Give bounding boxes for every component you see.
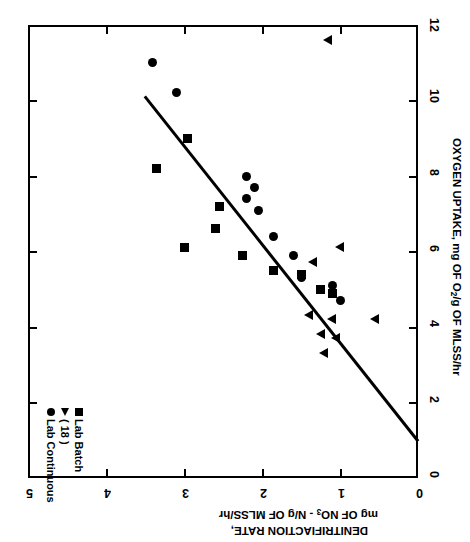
y-axis-title-line2-b: - N/g OF MLSS/hr xyxy=(219,509,317,521)
y-tick-label-2: 2 xyxy=(260,486,267,500)
x-tick-4 xyxy=(409,327,418,329)
x-tick-label-6: 6 xyxy=(427,245,441,252)
data-point-triangle xyxy=(316,329,325,339)
data-point-triangle xyxy=(308,257,317,267)
y-axis-title-line2-a: mg OF NO xyxy=(321,509,378,521)
y-tick-label-5: 5 xyxy=(26,486,33,500)
data-point-triangle xyxy=(370,314,379,324)
x-tick-label-4: 4 xyxy=(427,320,441,327)
data-point-square xyxy=(215,202,224,211)
y-tick-label-3: 3 xyxy=(182,486,189,500)
y-tick-label-4: 4 xyxy=(104,486,111,500)
y-tick-2 xyxy=(262,25,264,34)
y-axis-title-line2: mg OF NO3 - N/g OF MLSS/hr xyxy=(219,507,378,521)
x-tick-label-12: 12 xyxy=(427,18,441,32)
data-point-square xyxy=(297,270,306,279)
x-axis-title: OXYGEN UPTAKE, mg OF O2/g OF MLSS/hr xyxy=(449,138,463,376)
y-tick-label-0: 0 xyxy=(416,486,423,500)
x-axis-title-part2: /g OF MLSS/hr xyxy=(451,296,463,375)
chart-figure: 12 10 8 6 4 2 0 OXYGEN UPTAKE, mg OF O2/… xyxy=(0,0,470,542)
x-tick-8-left xyxy=(28,176,37,178)
data-point-circle xyxy=(172,88,181,97)
x-tick-6-left xyxy=(28,251,37,253)
x-tick-label-10: 10 xyxy=(427,89,441,103)
data-point-circle xyxy=(242,172,251,181)
legend-label-18: ( 18 ) xyxy=(59,419,71,445)
x-tick-2-left xyxy=(28,402,37,404)
square-marker-icon xyxy=(75,408,83,416)
x-tick-label-2: 2 xyxy=(427,396,441,403)
data-point-triangle xyxy=(319,348,328,358)
y-tick-4-bottom xyxy=(106,469,108,478)
y-tick-1-bottom xyxy=(340,469,342,478)
x-tick-4-left xyxy=(28,327,37,329)
data-point-square xyxy=(316,285,325,294)
data-point-triangle xyxy=(335,242,344,252)
data-point-square xyxy=(183,134,192,143)
y-tick-4 xyxy=(106,25,108,34)
y-axis-title-line1: DENITRIFIACTION RATE, xyxy=(231,525,368,537)
x-tick-label-8: 8 xyxy=(427,169,441,176)
circle-marker-icon xyxy=(47,408,55,416)
legend-item-18: ( 18 ) xyxy=(59,408,72,445)
x-tick-label-0: 0 xyxy=(427,471,441,478)
x-tick-6 xyxy=(409,251,418,253)
data-point-triangle xyxy=(327,314,336,324)
x-axis-title-part1: OXYGEN UPTAKE, mg OF O xyxy=(451,138,463,292)
data-point-square xyxy=(269,266,278,275)
y-tick-2-bottom xyxy=(262,469,264,478)
x-tick-10-left xyxy=(28,100,37,102)
y-axis-title-line2-sub: 3 xyxy=(317,507,322,516)
data-point-square xyxy=(180,243,189,252)
data-point-square xyxy=(152,164,161,173)
data-point-circle xyxy=(250,183,259,192)
data-point-triangle xyxy=(331,333,340,343)
plot-frame xyxy=(28,25,418,478)
legend-item-lab-batch: Lab Batch xyxy=(73,408,86,472)
data-point-square xyxy=(238,251,247,260)
data-point-circle xyxy=(336,296,345,305)
data-point-circle xyxy=(289,251,298,260)
legend-label-lab-continuous: Lab Continuous xyxy=(45,419,57,503)
data-point-triangle xyxy=(323,35,332,45)
data-point-triangle xyxy=(304,310,313,320)
y-tick-label-1: 1 xyxy=(338,486,345,500)
x-tick-2 xyxy=(409,402,418,404)
legend-item-lab-continuous: Lab Continuous xyxy=(45,408,58,503)
legend-label-lab-batch: Lab Batch xyxy=(73,419,85,472)
y-tick-3-bottom xyxy=(184,469,186,478)
x-tick-10 xyxy=(409,100,418,102)
y-tick-1 xyxy=(340,25,342,34)
y-tick-3 xyxy=(184,25,186,34)
triangle-marker-icon xyxy=(61,408,69,416)
data-point-circle xyxy=(254,206,263,215)
data-point-square xyxy=(328,289,337,298)
x-tick-8 xyxy=(409,176,418,178)
data-point-square xyxy=(211,224,220,233)
